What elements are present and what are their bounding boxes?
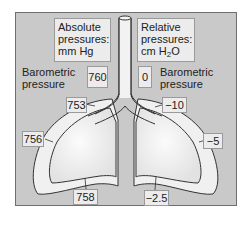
header-line: cm H2O — [141, 45, 191, 57]
barometric-relative-value: 0 — [138, 66, 152, 88]
label-line: pressure — [160, 78, 213, 90]
pleural-side-relative-value: −5 — [203, 133, 223, 149]
lungs-diagram — [0, 0, 252, 228]
unit-text: cm H — [141, 45, 167, 57]
pleural-base-absolute-value: 758 — [73, 189, 98, 205]
absolute-pressures-header: Absolute pressures: mm Hg — [54, 18, 111, 62]
relative-pressures-header: Relative pressures: cm H2O — [137, 18, 195, 62]
header-line: pressures: — [141, 33, 191, 45]
header-line: Relative — [141, 21, 191, 33]
barometric-label-left: Barometric pressure — [22, 66, 75, 90]
trachea-opening — [119, 16, 131, 20]
barometric-label-right: Barometric pressure — [160, 66, 213, 90]
label-line: Barometric — [160, 66, 213, 78]
alveolar-absolute-value: 753 — [66, 97, 87, 113]
label-line: Barometric — [22, 66, 75, 78]
label-line: pressure — [22, 78, 75, 90]
header-line: Absolute — [58, 21, 107, 33]
header-line: mm Hg — [58, 45, 107, 57]
pleural-side-absolute-value: 756 — [22, 131, 44, 147]
pleural-base-relative-value: −2.5 — [144, 190, 169, 206]
barometric-absolute-value: 760 — [87, 66, 108, 88]
alveolar-relative-value: −10 — [162, 97, 187, 113]
unit-text: O — [171, 45, 180, 57]
header-line: pressures: — [58, 33, 107, 45]
